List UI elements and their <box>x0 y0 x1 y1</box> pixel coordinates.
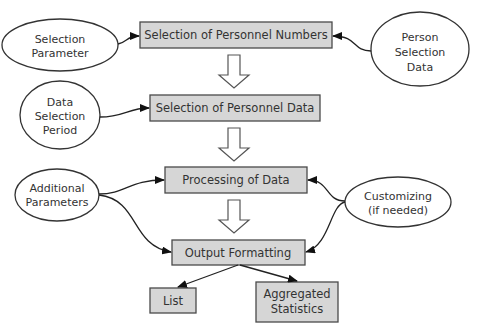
hollow-down-arrow-1 <box>219 55 249 88</box>
connector-data-selection-period <box>100 108 149 117</box>
connector-output-to-list <box>178 265 238 287</box>
customizing-line2: (if needed) <box>368 204 428 217</box>
hollow-down-arrow-2 <box>219 128 249 161</box>
data-selection-period-node: Data Selection Period <box>20 81 100 149</box>
data-selection-period-line3: Period <box>43 124 77 137</box>
connector-customizing-to-processing <box>308 180 345 201</box>
person-selection-data-line2: Selection <box>395 46 446 59</box>
additional-parameters-node: Additional Parameters <box>15 169 99 221</box>
customizing-node: Customizing (if needed) <box>345 177 451 227</box>
selection-personnel-numbers-label: Selection of Personnel Numbers <box>144 28 327 42</box>
selection-parameter-line1: Selection <box>35 33 86 46</box>
connector-additional-to-processing <box>99 180 164 194</box>
person-selection-data-node: Person Selection Data <box>371 12 469 86</box>
person-selection-data-line1: Person <box>402 31 439 44</box>
output-formatting-box: Output Formatting <box>172 240 305 265</box>
selection-parameter-line2: Parameter <box>31 47 89 60</box>
connector-person-selection-data <box>333 36 371 51</box>
additional-parameters-line1: Additional <box>29 182 84 195</box>
selection-personnel-numbers-box: Selection of Personnel Numbers <box>140 22 332 48</box>
additional-parameters-line2: Parameters <box>26 196 89 209</box>
data-selection-period-line1: Data <box>47 96 73 109</box>
selection-personnel-data-label: Selection of Personnel Data <box>156 101 315 115</box>
aggregated-statistics-box: Aggregated Statistics <box>256 282 338 322</box>
flowchart-canvas: Selection Parameter Person Selection Dat… <box>0 0 479 335</box>
connector-additional-to-output <box>99 195 171 252</box>
processing-of-data-box: Processing of Data <box>165 167 307 193</box>
connector-output-to-statistics <box>240 265 297 281</box>
connector-customizing-to-output <box>306 202 345 252</box>
processing-of-data-label: Processing of Data <box>182 173 289 187</box>
aggregated-statistics-line1: Aggregated <box>263 287 330 301</box>
customizing-line1: Customizing <box>364 190 432 203</box>
output-formatting-label: Output Formatting <box>185 246 291 260</box>
selection-personnel-data-box: Selection of Personnel Data <box>150 95 320 121</box>
connector-selection-parameter <box>118 36 139 44</box>
person-selection-data-line3: Data <box>407 61 433 74</box>
list-box: List <box>150 288 196 313</box>
data-selection-period-line2: Selection <box>35 110 86 123</box>
selection-parameter-node: Selection Parameter <box>2 19 118 71</box>
aggregated-statistics-line2: Statistics <box>271 302 324 316</box>
hollow-down-arrow-3 <box>219 200 249 233</box>
list-label: List <box>163 294 184 308</box>
